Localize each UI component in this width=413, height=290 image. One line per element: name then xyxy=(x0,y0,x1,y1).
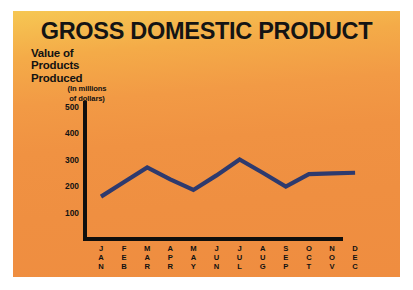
plot-area: 500400300200100 JANFEBMARAPRMAYJUNJULAUG… xyxy=(13,11,400,277)
chart-panel: GROSS DOMESTIC PRODUCT Value of Products… xyxy=(13,11,400,277)
poster-canvas: GROSS DOMESTIC PRODUCT Value of Products… xyxy=(0,0,413,290)
gdp-series-line xyxy=(101,160,355,197)
data-line-chart xyxy=(13,11,400,277)
